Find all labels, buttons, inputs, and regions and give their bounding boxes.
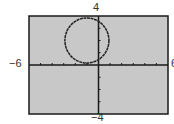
y-max-label: 4 — [93, 2, 99, 13]
y-min-label: −4 — [91, 112, 104, 123]
graphing-calculator-plot — [0, 0, 174, 124]
x-max-label: 6 — [171, 58, 174, 69]
x-min-label: −6 — [9, 58, 22, 69]
